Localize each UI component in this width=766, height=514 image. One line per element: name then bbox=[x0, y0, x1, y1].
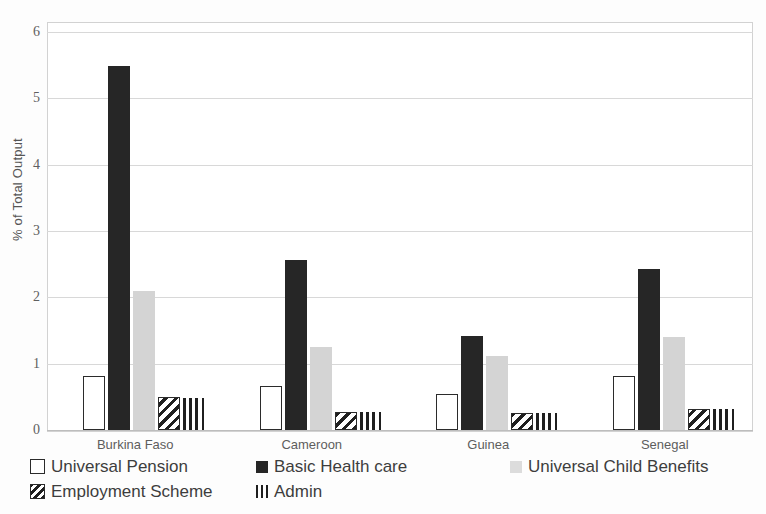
bar bbox=[83, 376, 105, 430]
x-axis-label-guinea: Guinea bbox=[400, 437, 577, 452]
legend-item[interactable]: Universal Child Benefits bbox=[510, 458, 708, 475]
bar bbox=[663, 337, 685, 430]
legend-label: Basic Health care bbox=[274, 458, 407, 475]
bar bbox=[436, 394, 458, 430]
x-axis-label-burkina-faso: Burkina Faso bbox=[47, 437, 224, 452]
y-tick-label: 0 bbox=[14, 423, 40, 437]
bar-chart: 0123456 % of Total Output Burkina FasoCa… bbox=[0, 0, 766, 514]
bar bbox=[713, 409, 735, 430]
bar-group bbox=[577, 32, 754, 430]
bar bbox=[133, 291, 155, 430]
bar-group bbox=[400, 32, 577, 430]
x-axis-label-cameroon: Cameroon bbox=[224, 437, 401, 452]
bar-group bbox=[47, 32, 224, 430]
legend-label: Universal Pension bbox=[51, 458, 188, 475]
legend-swatch-icon bbox=[30, 484, 45, 499]
x-axis-label-senegal: Senegal bbox=[577, 437, 754, 452]
legend-item[interactable]: Admin bbox=[256, 483, 322, 500]
bar-group bbox=[224, 32, 401, 430]
y-tick-label: 1 bbox=[14, 357, 40, 371]
legend-swatch-icon bbox=[256, 485, 268, 498]
x-axis-labels: Burkina FasoCameroonGuineaSenegal bbox=[47, 437, 753, 459]
legend-swatch-icon bbox=[256, 461, 268, 473]
bar bbox=[260, 386, 282, 430]
chart-legend: Universal PensionBasic Health careUniver… bbox=[30, 458, 750, 508]
legend-swatch-icon bbox=[510, 461, 522, 473]
bar bbox=[486, 356, 508, 430]
bar bbox=[183, 398, 205, 431]
bar bbox=[511, 413, 533, 430]
bar bbox=[360, 412, 382, 430]
bar bbox=[613, 376, 635, 430]
y-axis-title: % of Total Output bbox=[10, 110, 25, 270]
bar bbox=[335, 412, 357, 430]
bar bbox=[108, 66, 130, 430]
y-tick-label: 5 bbox=[14, 91, 40, 105]
y-tick-label: 2 bbox=[14, 290, 40, 304]
legend-label: Universal Child Benefits bbox=[528, 458, 708, 475]
legend-item[interactable]: Universal Pension bbox=[30, 458, 188, 475]
bars-layer bbox=[47, 32, 753, 430]
legend-swatch-icon bbox=[30, 459, 45, 474]
y-tick-label: 6 bbox=[14, 25, 40, 39]
legend-item[interactable]: Employment Scheme bbox=[30, 483, 213, 500]
bar bbox=[158, 397, 180, 430]
bar bbox=[536, 413, 558, 430]
bar bbox=[688, 409, 710, 430]
legend-item[interactable]: Basic Health care bbox=[256, 458, 407, 475]
bar bbox=[461, 336, 483, 430]
bar bbox=[310, 347, 332, 430]
gridline-0 bbox=[47, 430, 753, 431]
bar bbox=[638, 269, 660, 430]
legend-label: Employment Scheme bbox=[51, 483, 213, 500]
bar bbox=[285, 260, 307, 430]
legend-label: Admin bbox=[274, 483, 322, 500]
